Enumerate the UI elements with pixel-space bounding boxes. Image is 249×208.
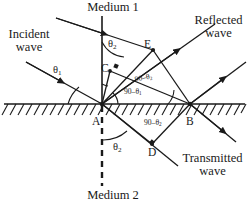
point-dot-B [188,102,193,107]
angle-comp-theta2-right: 90–θ2 [144,119,162,128]
angle-theta2-bottom: θ2 [113,141,122,154]
point-label-A: A [92,115,100,127]
point-label-B: B [186,115,194,127]
interface-boundary [2,104,246,115]
point-label-D: D [148,146,156,158]
transmitted-wave-label-line2: wave [176,165,249,178]
point-label-C: C [101,62,109,74]
point-label-E: E [144,38,151,50]
point-dot-A [100,102,105,107]
point-dot-E [151,48,155,52]
point-markers [100,48,193,146]
medium-2-label: Medium 2 [70,189,156,202]
angle-theta2-top: θ2 [108,38,117,51]
reflected-wave-label-line2: wave [188,27,249,40]
incident-wave-label-line2: wave [0,41,58,54]
hatching [2,104,246,115]
angle-theta1-incident: θ1 [53,64,62,77]
optics-refraction-diagram: Medium 1 Medium 2 Incident wave Reflecte… [0,0,249,208]
medium-1-label: Medium 1 [70,1,156,14]
angle-comp-theta1-lower: 90–θ1 [124,88,142,97]
